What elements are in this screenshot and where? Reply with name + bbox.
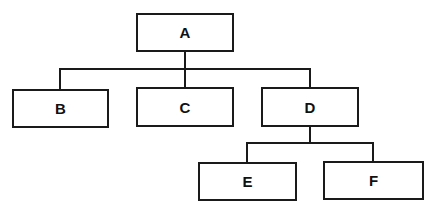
connector-to-d: [309, 68, 311, 88]
node-d-label: D: [305, 99, 316, 116]
node-f: F: [323, 161, 424, 200]
node-a: A: [136, 13, 234, 52]
connector-to-f: [372, 142, 374, 162]
node-d: D: [261, 87, 359, 127]
node-a-label: A: [180, 24, 191, 41]
connector-to-c: [184, 68, 186, 88]
node-f-label: F: [369, 172, 378, 189]
node-c: C: [136, 87, 234, 127]
node-e-label: E: [242, 173, 252, 190]
node-e: E: [198, 162, 297, 201]
node-b: B: [12, 89, 109, 128]
node-b-label: B: [55, 100, 66, 117]
connector-to-b: [59, 68, 61, 90]
node-c-label: C: [180, 99, 191, 116]
connector-to-e: [246, 142, 248, 163]
connector-level2-bar: [246, 142, 374, 144]
